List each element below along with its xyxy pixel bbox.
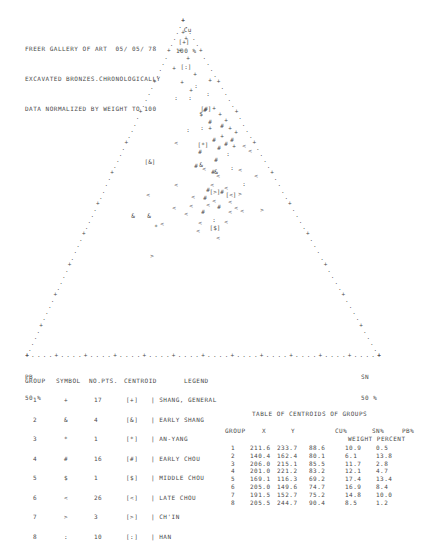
triangle-edge-base: . [295, 351, 299, 358]
legend-cell-centroid: [+] [126, 396, 138, 403]
centroid-cell-x: 205.0 [250, 483, 271, 490]
centroid-cell-group: 6 [231, 483, 235, 490]
legend-header-centroid: CENTROID [124, 377, 157, 384]
legend-cell-npts: 3 [94, 513, 98, 520]
triangle-edge-base: + [231, 351, 235, 358]
centroid-cell-x: 205.5 [250, 499, 271, 506]
triangle-edge-base: + [25, 351, 29, 358]
triangle-edge-base: . [313, 351, 317, 358]
legend-header-group: GROUP [25, 377, 46, 384]
data-point-group-6: < [191, 193, 195, 200]
triangle-edge-base: . [371, 351, 375, 358]
legend-table: GROUP SYMBOL NO.PTS. CENTROID LEGEND 1+1… [0, 377, 230, 554]
centroid-cell-group: 2 [231, 452, 235, 459]
centroid-marker-group-4: [#] [201, 105, 212, 112]
data-point-group-1: + [180, 78, 184, 85]
centroid-marker-group-1: [+] [179, 38, 190, 45]
data-point-group-8: : [174, 94, 178, 101]
centroid-cell-pb: 0.5 [376, 444, 388, 451]
legend-cell-group: 5 [33, 474, 37, 481]
centroid-cell-y: 162.4 [277, 452, 298, 459]
data-point-group-7: > [260, 206, 264, 213]
centroid-header-cu: CU% [335, 427, 347, 434]
legend-cell-symbol: < [64, 494, 68, 501]
data-point-group-8: : [230, 164, 234, 171]
centroid-cell-x: 206.0 [250, 460, 271, 467]
centroid-cell-cu: 69.2 [309, 475, 325, 482]
legend-cell-legend: | EARLY CHOU [151, 455, 200, 462]
legend-cell-npts: 1 [94, 474, 98, 481]
data-point-group-4: # [203, 194, 207, 201]
legend-cell-legend: | MIDDLE CHOU [151, 474, 204, 481]
data-point-group-8: : [212, 216, 216, 223]
legend-cell-npts: 26 [94, 494, 102, 501]
triangle-edge-base: . [31, 351, 35, 358]
triangle-edge-base: . [131, 351, 135, 358]
centroid-cell-x: 169.1 [250, 475, 271, 482]
data-point-group-4: # [194, 162, 198, 169]
centroid-subheader: WEIGHT PERCENT [348, 435, 406, 442]
legend-cell-group: 3 [33, 435, 37, 442]
centroid-cell-x: 201.0 [250, 467, 271, 474]
legend-cell-group: 7 [33, 513, 37, 520]
centroid-cell-sn: 12.1 [345, 467, 361, 474]
legend-cell-group: 1 [33, 396, 37, 403]
centroid-cell-pb: 13.4 [376, 475, 392, 482]
triangle-edge-base: . [49, 351, 53, 358]
centroid-cell-y: 215.1 [277, 460, 298, 467]
triangle-edge-base: . [119, 351, 123, 358]
triangle-edge-base: . [242, 351, 246, 358]
triangle-edge-base: . [107, 351, 111, 358]
centroid-cell-y: 152.7 [277, 491, 298, 498]
centroid-cell-sn: 11.7 [345, 460, 361, 467]
legend-cell-centroid: [$] [126, 474, 138, 481]
centroid-cell-pb: 4.7 [376, 467, 388, 474]
data-point-group-7: > [150, 252, 154, 259]
legend-cell-legend: | SHANG, GENERAL [151, 396, 217, 403]
legend-cell-group: 8 [33, 533, 37, 540]
triangle-edge-base: . [336, 351, 340, 358]
centroid-cell-y: 233.7 [277, 444, 298, 451]
data-point-group-6: < [228, 208, 232, 215]
centroid-header-y: Y [291, 427, 295, 434]
data-point-group-1: + [186, 54, 190, 61]
triangle-edge-base: . [277, 351, 281, 358]
triangle-edge-base: + [143, 351, 147, 358]
apex-right-value: 50 % [361, 394, 377, 401]
centroid-cell-group: 8 [231, 499, 235, 506]
legend-cell-centroid: [#] [126, 455, 138, 462]
triangle-edge-base: . [307, 351, 311, 358]
data-point-group-4: # [217, 144, 221, 151]
triangle-edge-base: . [101, 351, 105, 358]
data-point-group-4: # [212, 136, 216, 143]
triangle-edge-base: . [283, 351, 287, 358]
data-point-group-2: & [147, 212, 151, 219]
centroid-cell-cu: 90.4 [309, 499, 325, 506]
legend-cell-legend: | CH'IN [151, 513, 180, 520]
triangle-edge-base: . [90, 351, 94, 358]
triangle-edge-base: . [184, 351, 188, 358]
centroid-cell-y: 244.7 [277, 499, 298, 506]
data-point-group-8: : [188, 94, 192, 101]
legend-cell-legend: | HAN [151, 533, 172, 540]
centroid-header-group: GROUP [225, 427, 246, 434]
legend-cell-symbol: : [64, 533, 68, 540]
legend-cell-legend: | LATE CHOU [151, 494, 196, 501]
centroid-cell-pb: 10.0 [376, 491, 392, 498]
triangle-edge-base: + [172, 351, 176, 358]
data-point-group-6: < [184, 210, 188, 217]
legend-cell-group: 4 [33, 455, 37, 462]
data-point-group-4: # [198, 148, 202, 155]
legend-cell-centroid: [:] [126, 533, 138, 540]
legend-cell-symbol: & [64, 416, 68, 423]
data-point-group-6: < [224, 184, 228, 191]
data-point-group-6: < [212, 197, 216, 204]
data-point-group-7: > [238, 190, 242, 197]
data-point-group-8: : [226, 150, 230, 157]
centroid-cell-x: 191.5 [250, 491, 271, 498]
triangle-edge-base: + [84, 351, 88, 358]
legend-cell-npts: 10 [94, 533, 102, 540]
data-point-group-6: < [234, 204, 238, 211]
data-point-group-6: < [210, 181, 214, 188]
centroid-cell-pb: 1.2 [376, 499, 388, 506]
